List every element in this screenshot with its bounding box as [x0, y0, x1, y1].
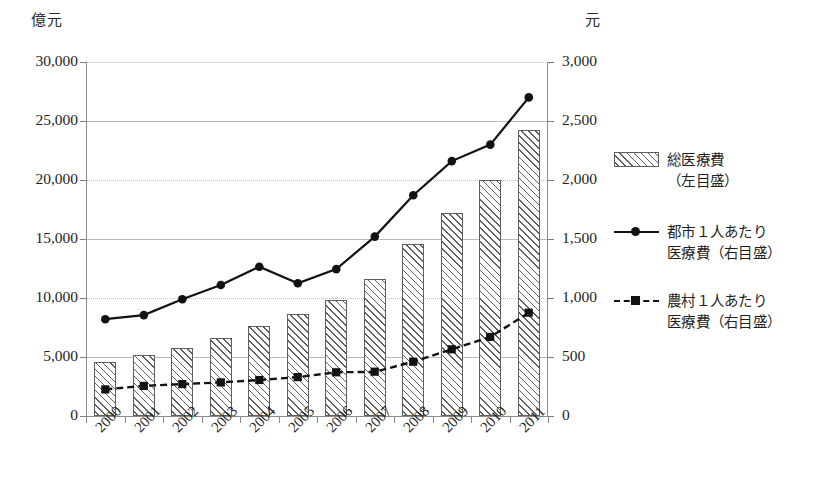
legend-entry: 総医療費 （左目盛） — [614, 150, 818, 192]
right-axis-tick-label: 0 — [562, 406, 570, 424]
bar-total-medical-expenditure — [364, 279, 386, 416]
gridline — [86, 121, 548, 122]
x-axis-tick-mark — [510, 416, 511, 423]
bar-total-medical-expenditure — [479, 180, 501, 416]
legend-key-hatched-bar-swatch — [614, 150, 660, 169]
left-axis-tick-label: 30,000 — [35, 52, 78, 70]
x-axis-tick-mark — [279, 416, 280, 423]
left-axis-unit-label: 億元 — [31, 8, 63, 29]
left-axis-tick-label: 20,000 — [35, 170, 78, 188]
x-axis-tick-mark — [433, 416, 434, 423]
x-axis-tick-mark — [471, 416, 472, 423]
right-axis-tick-label: 1,500 — [562, 229, 597, 247]
legend-entry: 農村１人あたり 医療費（右目盛） — [614, 291, 818, 333]
left-axis-tick-label: 25,000 — [35, 111, 78, 129]
x-axis-tick-mark — [356, 416, 357, 423]
right-axis-tick-mark — [548, 180, 554, 181]
right-axis-tick-mark — [548, 62, 554, 63]
bar-total-medical-expenditure — [402, 244, 424, 416]
circle-marker-icon — [631, 227, 640, 236]
left-axis-tick-label: 5,000 — [43, 347, 78, 365]
legend-entry: 都市１人あたり 医療費（右目盛） — [614, 222, 818, 264]
bar-total-medical-expenditure — [518, 130, 540, 416]
plot-area — [86, 62, 548, 416]
right-axis-tick-mark — [548, 357, 554, 358]
legend-key-solid-line-circle-marker — [614, 222, 660, 241]
x-axis-tick-mark — [202, 416, 203, 423]
chart-figure: 億元 元 30,00025,00020,00015,00010,0005,000… — [0, 0, 820, 487]
x-axis-tick-mark — [394, 416, 395, 423]
bar-total-medical-expenditure — [325, 300, 347, 416]
left-axis-tick-label: 15,000 — [35, 229, 78, 247]
left-axis-tick-label: 10,000 — [35, 288, 78, 306]
right-axis-unit-label: 元 — [585, 8, 601, 29]
legend-label: 都市１人あたり 医療費（右目盛） — [667, 222, 781, 264]
square-marker-icon — [631, 296, 640, 305]
legend-label: 農村１人あたり 医療費（右目盛） — [667, 291, 781, 333]
legend-key-dashed-line-square-marker — [614, 291, 660, 310]
right-axis-tick-label: 1,000 — [562, 288, 597, 306]
x-axis-tick-mark — [317, 416, 318, 423]
left-axis-tick-label: 0 — [70, 406, 78, 424]
right-axis-tick-mark — [548, 298, 554, 299]
bar-total-medical-expenditure — [441, 213, 463, 416]
right-axis-tick-mark — [548, 121, 554, 122]
gridline — [86, 62, 548, 63]
x-axis-tick-mark — [240, 416, 241, 423]
right-axis-tick-label: 3,000 — [562, 52, 597, 70]
x-axis-tick-mark — [548, 416, 549, 423]
bar-total-medical-expenditure — [287, 314, 309, 416]
legend-label: 総医療費 （左目盛） — [667, 150, 739, 192]
right-axis-line — [547, 62, 548, 416]
right-axis-tick-label: 500 — [562, 347, 585, 365]
right-axis-tick-mark — [548, 239, 554, 240]
left-axis-line — [86, 62, 87, 416]
hatched-bar-swatch-icon — [614, 152, 659, 167]
right-axis-tick-label: 2,500 — [562, 111, 597, 129]
right-axis-tick-label: 2,000 — [562, 170, 597, 188]
chart-legend: 総医療費 （左目盛）都市１人あたり 医療費（右目盛）農村１人あたり 医療費（右目… — [614, 150, 818, 356]
x-axis-tick-mark — [86, 416, 87, 423]
x-axis-tick-mark — [125, 416, 126, 423]
x-axis-tick-mark — [163, 416, 164, 423]
